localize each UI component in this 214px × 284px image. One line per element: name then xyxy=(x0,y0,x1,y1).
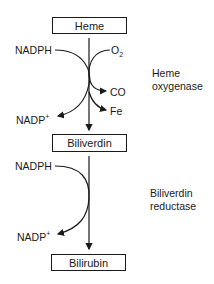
plus-sup: + xyxy=(45,113,49,120)
o2-o: O xyxy=(111,44,119,56)
plus-sup: + xyxy=(46,230,50,237)
nadp-text: NADP xyxy=(16,114,45,126)
node-bilirubin: Bilirubin xyxy=(51,254,126,271)
cofactor-arc-1 xyxy=(55,50,90,116)
o2-label: O2 xyxy=(111,44,123,61)
nadph-label-2: NADPH xyxy=(15,160,52,172)
enzyme-biliverdin-reductase: Biliverdin reductase xyxy=(150,187,196,213)
o2-sub: 2 xyxy=(119,51,123,58)
cofactor-arc-2 xyxy=(55,166,89,234)
nadp-label-2: NADP+ xyxy=(17,228,50,243)
nadph-label-1: NADPH xyxy=(15,44,52,56)
node-biliverdin: Biliverdin xyxy=(52,134,127,152)
node-heme: Heme xyxy=(52,17,127,34)
fe-label: Fe xyxy=(110,105,122,117)
enzyme-line2: oxygenase xyxy=(152,80,203,93)
co-label: CO xyxy=(110,86,126,98)
node-bilirubin-label: Bilirubin xyxy=(69,257,108,269)
nadp-label-1: NADP+ xyxy=(16,111,49,126)
enzyme-line1: Heme xyxy=(152,67,203,80)
enzyme-line1: Biliverdin xyxy=(150,187,196,200)
node-heme-label: Heme xyxy=(75,20,104,32)
nadp-text: NADP xyxy=(17,231,46,243)
node-biliverdin-label: Biliverdin xyxy=(67,137,112,149)
enzyme-heme-oxygenase: Heme oxygenase xyxy=(152,67,203,93)
fe-arc xyxy=(89,92,106,110)
enzyme-line2: reductase xyxy=(150,200,196,213)
o2-co-arc xyxy=(89,50,110,91)
